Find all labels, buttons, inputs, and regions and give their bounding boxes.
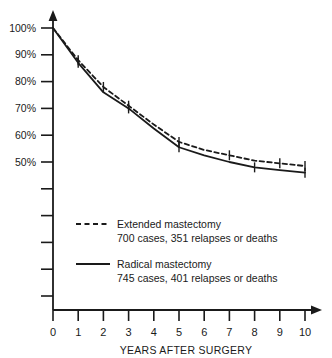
x-tick-label: 10 <box>299 326 311 338</box>
x-tick-label: 7 <box>226 326 232 338</box>
legend-label-radical: Radical mastectomy <box>117 258 212 270</box>
y-tick-label: 100% <box>9 22 36 34</box>
x-tick-label: 0 <box>50 326 56 338</box>
x-tick-label: 2 <box>100 326 106 338</box>
x-tick-label: 1 <box>75 326 81 338</box>
x-tick-label: 5 <box>176 326 182 338</box>
legend-detail-extended: 700 cases, 351 relapses or deaths <box>117 232 278 244</box>
x-tick-label: 3 <box>126 326 132 338</box>
x-tick-label: 8 <box>252 326 258 338</box>
y-tick-label: 90% <box>15 48 36 60</box>
y-tick-label: 50% <box>15 156 36 168</box>
y-tick-label: 60% <box>15 129 36 141</box>
chart-background <box>0 0 332 358</box>
x-axis-title: YEARS AFTER SURGERY <box>120 344 253 356</box>
x-tick-label: 6 <box>201 326 207 338</box>
y-tick-label: 70% <box>15 102 36 114</box>
legend-label-extended: Extended mastectomy <box>117 218 222 230</box>
y-tick-label: 80% <box>15 75 36 87</box>
legend-detail-radical: 745 cases, 401 relapses or deaths <box>117 272 278 284</box>
survival-curve-chart: 100% 90% 80% 70% 60% 50% 0 1 2 3 4 5 6 7… <box>0 0 332 358</box>
x-tick-label: 9 <box>277 326 283 338</box>
x-tick-label: 4 <box>151 326 157 338</box>
